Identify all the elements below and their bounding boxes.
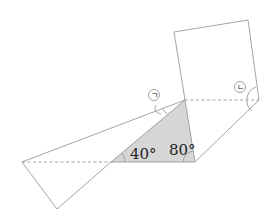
giyeok-label: ㄱ xyxy=(151,91,158,100)
angle-giyeok-arc xyxy=(163,109,167,114)
nieun-label: ㄴ xyxy=(237,83,244,92)
angle-80-label: 80° xyxy=(169,141,196,159)
diagram-canvas: ㄱ ㄴ 40° 80° xyxy=(0,0,275,221)
angle-40-label: 40° xyxy=(130,145,157,163)
